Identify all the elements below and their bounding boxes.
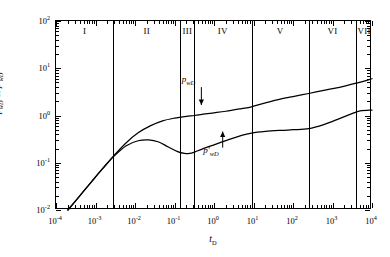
x-tick bbox=[126, 21, 127, 24]
x-tick bbox=[123, 21, 124, 24]
x-tick bbox=[114, 21, 115, 24]
y-tick bbox=[367, 182, 370, 183]
y-tick bbox=[367, 196, 370, 197]
x-tick bbox=[324, 21, 325, 24]
x-tick bbox=[333, 203, 334, 208]
y-tick bbox=[56, 73, 59, 74]
x-tick bbox=[131, 205, 132, 208]
x-tick bbox=[75, 205, 76, 208]
y-tick bbox=[367, 46, 370, 47]
y-tick bbox=[367, 76, 370, 77]
x-tick-label: 10-4 bbox=[48, 214, 62, 226]
x-tick bbox=[159, 21, 160, 24]
y-tick bbox=[56, 70, 59, 71]
y-tick bbox=[56, 123, 59, 124]
y-tick bbox=[56, 126, 59, 127]
y-tick bbox=[367, 165, 370, 166]
x-tick bbox=[289, 21, 290, 24]
y-tick bbox=[56, 26, 59, 27]
y-tick bbox=[56, 79, 59, 80]
y-tick bbox=[367, 31, 370, 32]
y-tick bbox=[56, 182, 59, 183]
pwd-derivative-annotation: p'wD bbox=[203, 145, 218, 157]
x-tick bbox=[356, 205, 357, 208]
y-tick bbox=[365, 163, 370, 164]
x-tick bbox=[233, 205, 234, 208]
x-tick bbox=[329, 21, 330, 24]
plot-area: IIIIIIIVVVIVII bbox=[55, 20, 371, 209]
y-axis-title-p-sub: wD bbox=[0, 100, 4, 109]
x-tick bbox=[107, 205, 108, 208]
x-tick bbox=[226, 21, 227, 24]
y-tick bbox=[56, 21, 61, 22]
x-tick bbox=[186, 21, 187, 24]
y-tick bbox=[56, 101, 59, 102]
x-tick bbox=[114, 205, 115, 208]
x-tick bbox=[281, 21, 282, 24]
y-tick bbox=[367, 173, 370, 174]
x-tick bbox=[214, 21, 215, 26]
x-tick bbox=[226, 205, 227, 208]
y-tick bbox=[367, 82, 370, 83]
x-tick bbox=[284, 205, 285, 208]
y-tick bbox=[56, 173, 59, 174]
x-tick bbox=[80, 21, 81, 24]
y-tick bbox=[365, 116, 370, 117]
x-tick bbox=[210, 205, 211, 208]
x-tick bbox=[254, 203, 255, 208]
x-axis-title: tD bbox=[209, 234, 216, 246]
region-label-ii: II bbox=[144, 26, 151, 36]
x-tick bbox=[202, 21, 203, 24]
y-tick bbox=[367, 120, 370, 121]
x-tick bbox=[305, 205, 306, 208]
x-tick bbox=[87, 21, 88, 24]
x-tick bbox=[193, 21, 194, 24]
y-tick-label: 10-2 bbox=[16, 203, 50, 215]
x-tick bbox=[247, 21, 248, 24]
x-tick bbox=[129, 205, 130, 208]
y-tick bbox=[367, 35, 370, 36]
x-tick bbox=[166, 205, 167, 208]
region-label-v: V bbox=[277, 26, 284, 36]
x-tick bbox=[126, 205, 127, 208]
x-tick bbox=[147, 205, 148, 208]
x-tick bbox=[205, 205, 206, 208]
x-tick bbox=[351, 205, 352, 208]
y-tick bbox=[56, 177, 59, 178]
y-tick bbox=[367, 28, 370, 29]
region-divider-VI bbox=[309, 21, 310, 208]
x-tick bbox=[159, 205, 160, 208]
x-tick bbox=[247, 205, 248, 208]
y-tick bbox=[56, 46, 59, 47]
region-divider-II bbox=[113, 21, 114, 208]
y-tick bbox=[56, 68, 61, 69]
y-tick bbox=[56, 187, 59, 188]
x-axis-title-sub: D bbox=[212, 239, 217, 246]
y-tick bbox=[367, 87, 370, 88]
x-tick bbox=[56, 203, 57, 208]
x-tick-label: 101 bbox=[247, 214, 259, 226]
x-tick bbox=[356, 21, 357, 24]
y-tick bbox=[367, 140, 370, 141]
region-label-iii: III bbox=[182, 26, 192, 36]
x-tick bbox=[277, 21, 278, 24]
x-tick bbox=[344, 205, 345, 208]
x-tick bbox=[96, 203, 97, 208]
x-tick bbox=[326, 21, 327, 24]
region-divider-IV bbox=[194, 21, 195, 208]
y-tick bbox=[367, 101, 370, 102]
y-tick bbox=[367, 126, 370, 127]
x-tick bbox=[135, 203, 136, 208]
x-tick bbox=[171, 21, 172, 24]
x-tick bbox=[329, 205, 330, 208]
y-tick bbox=[367, 79, 370, 80]
x-tick bbox=[84, 205, 85, 208]
x-tick bbox=[265, 21, 266, 24]
x-tick bbox=[312, 21, 313, 24]
y-axis-title-pd: p' bbox=[0, 81, 2, 88]
x-tick bbox=[242, 21, 243, 24]
x-tick bbox=[68, 21, 69, 24]
y-tick-label: 100 bbox=[16, 109, 50, 121]
region-divider-V bbox=[252, 21, 253, 208]
x-tick bbox=[119, 21, 120, 24]
